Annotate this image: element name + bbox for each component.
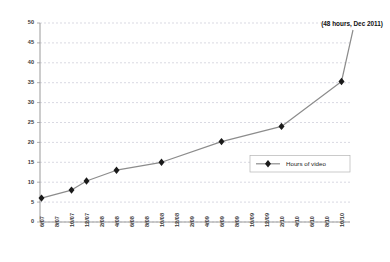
x-tick-label: 6/07 — [39, 216, 45, 227]
y-tick-label: 5 — [31, 199, 34, 205]
x-tick-label: 2/09 — [189, 216, 195, 227]
x-tick-label: 6/09 — [219, 216, 225, 227]
x-tick-label: 4/10 — [294, 216, 300, 227]
legend-entry-label: Hours of video — [286, 160, 326, 167]
x-tick-label: 10/09 — [249, 213, 255, 227]
chart-container: 50 45 40 35 30 25 20 15 10 5 0 — [0, 0, 390, 262]
y-tick-label: 10 — [28, 179, 34, 185]
y-tick-label: 25 — [28, 119, 34, 125]
x-tick-label: 4/08 — [114, 216, 120, 227]
x-tick-label: 6/10 — [309, 216, 315, 227]
y-tick-label: 0 — [31, 218, 34, 224]
y-tick-label: 30 — [28, 99, 34, 105]
x-tick-label: 8/08 — [144, 216, 150, 227]
annotation-48-hours: (48 hours, Dec 2011) — [321, 20, 383, 28]
y-tick-label: 45 — [28, 39, 34, 45]
y-tick-label: 15 — [28, 159, 34, 165]
x-tick-label: 2/10 — [279, 216, 285, 227]
x-tick-label: 8/09 — [234, 216, 240, 227]
x-tick-label: 12/08 — [174, 213, 180, 227]
x-tick-label: 8/07 — [54, 216, 60, 227]
x-tick-label: 6/08 — [129, 216, 135, 227]
x-tick-label: 8/10 — [324, 216, 330, 227]
x-tick-label: 12/09 — [264, 213, 270, 227]
y-tick-label: 40 — [28, 59, 34, 65]
line-chart: 50 45 40 35 30 25 20 15 10 5 0 — [0, 0, 390, 262]
x-tick-label: 4/09 — [204, 216, 210, 227]
y-tick-label: 50 — [28, 19, 34, 25]
y-tick-label: 20 — [28, 139, 34, 145]
x-tick-label: 12/07 — [84, 213, 90, 227]
x-tick-label: 10/07 — [69, 213, 75, 227]
x-tick-label: 10/08 — [159, 213, 165, 227]
y-tick-label: 35 — [28, 79, 34, 85]
annotation-label: (48 hours, Dec 2011) — [321, 20, 383, 28]
x-tick-label: 10/10 — [339, 213, 345, 227]
legend: Hours of video — [250, 156, 350, 173]
x-tick-label: 2/08 — [99, 216, 105, 227]
